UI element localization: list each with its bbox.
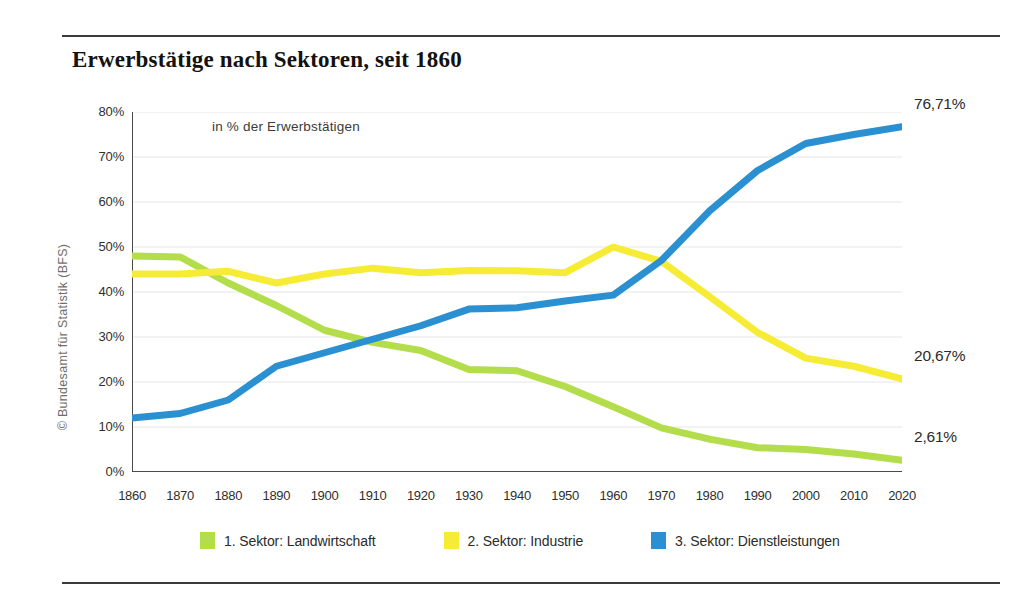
x-axis-tick-label: 1880 [205,488,251,503]
bottom-divider [62,582,1000,584]
legend-item-label: 3. Sektor: Dienstleistungen [675,533,840,549]
x-axis-tick-label: 1930 [446,488,492,503]
legend-swatch-sector1 [200,532,215,549]
chart-container: in % der Erwerbstätigen 80%70%60%50%40%3… [72,100,962,570]
x-axis-tick-label: 2020 [879,488,925,503]
line-chart-svg [132,112,902,472]
series-end-label: 20,67% [914,347,965,365]
y-axis-tick-label: 60% [72,194,124,209]
x-axis-tick-label: 1940 [494,488,540,503]
y-axis-tick-label: 10% [72,419,124,434]
x-axis-tick-label: 1970 [638,488,684,503]
y-axis-tick-label: 0% [72,464,124,479]
x-axis-tick-label: 1960 [590,488,636,503]
legend-item[interactable]: 3. Sektor: Dienstleistungen [651,532,840,549]
y-axis-tick-label: 80% [72,104,124,119]
series-line-2 [132,247,902,379]
page-title: Erwerbstätige nach Sektoren, seit 1860 [72,47,462,73]
series-end-label: 76,71% [914,95,965,113]
source-credit: © Bundesamt für Statistik (BFS) [56,212,70,462]
y-axis-tick-label: 50% [72,239,124,254]
x-axis-tick-label: 1890 [253,488,299,503]
legend-swatch-sector3 [651,532,666,549]
legend-item-label: 1. Sektor: Landwirtschaft [224,533,376,549]
series-end-label: 2,61% [914,428,957,446]
legend-item[interactable]: 2. Sektor: Industrie [444,532,584,549]
series-line-1 [132,256,902,460]
legend-item[interactable]: 1. Sektor: Landwirtschaft [200,532,376,549]
y-axis-tick-label: 70% [72,149,124,164]
y-axis-tick-label: 30% [72,329,124,344]
x-axis-tick-label: 1900 [302,488,348,503]
x-axis-tick-label: 2010 [831,488,877,503]
x-axis-tick-label: 1980 [687,488,733,503]
x-axis-tick-label: 1910 [350,488,396,503]
x-axis-tick-label: 1860 [109,488,155,503]
plot-area [132,112,902,472]
x-axis-tick-label: 2000 [783,488,829,503]
top-divider [62,35,1000,37]
legend-item-label: 2. Sektor: Industrie [468,533,584,549]
x-axis-tick-label: 1920 [398,488,444,503]
x-axis-tick-label: 1950 [542,488,588,503]
y-axis-tick-label: 20% [72,374,124,389]
x-axis-tick-label: 1990 [735,488,781,503]
y-axis-tick-label: 40% [72,284,124,299]
x-axis-tick-label: 1870 [157,488,203,503]
figure-root: Erwerbstätige nach Sektoren, seit 1860 ©… [0,0,1016,610]
legend-swatch-sector2 [444,532,459,549]
chart-legend: 1. Sektor: Landwirtschaft2. Sektor: Indu… [200,532,840,549]
